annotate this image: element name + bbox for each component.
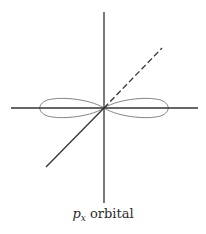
orbital-subscript: x (81, 213, 86, 223)
orbital-symbol: p (72, 206, 80, 221)
px-orbital-diagram (0, 0, 206, 234)
caption-text: orbital (86, 206, 134, 221)
diagram-caption: px orbital (0, 206, 206, 223)
